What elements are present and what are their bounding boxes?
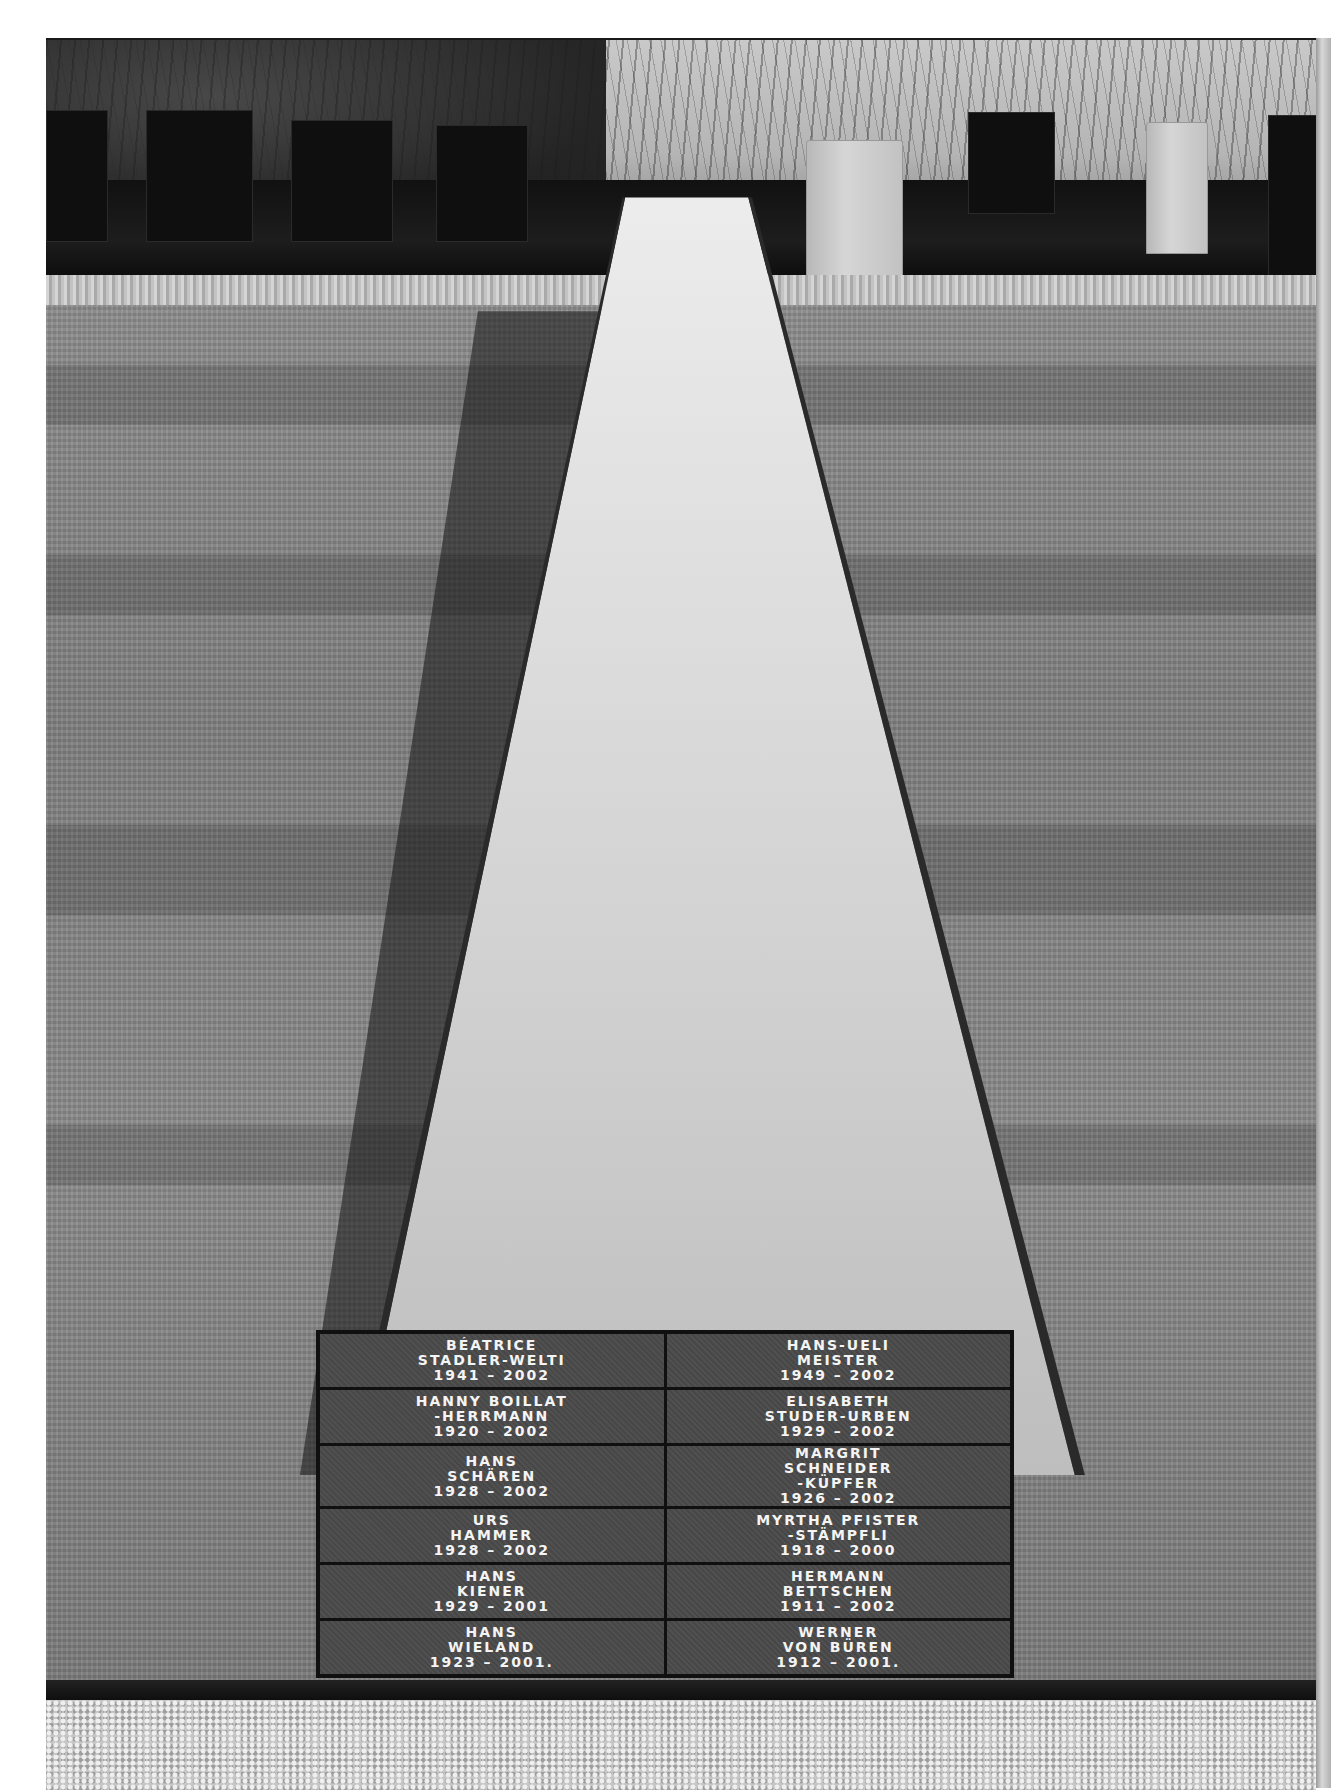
headstone [291,120,393,242]
headstone-light [1146,122,1208,254]
plaque-line: BETTSCHEN [783,1584,894,1599]
front-metal-edge [46,1680,1316,1702]
plaque-line: STADLER-WELTI [418,1353,566,1368]
plaque-line: -KÜPFER [797,1476,879,1491]
plaque-line: URS [473,1513,511,1528]
plaque-line: HANS [466,1625,518,1640]
plaque-line: HERMANN [791,1569,885,1584]
headstone [146,110,253,242]
plaque-line: 1941 – 2002 [433,1368,550,1383]
plaque: ELISABETH STUDER-URBEN 1929 – 2002 [667,1390,1011,1443]
plaque: HANS WIELAND 1923 – 2001. [320,1621,664,1674]
headstone [46,110,108,242]
headstone [1268,115,1316,287]
headstone-light [806,140,903,282]
plaque: HANS KIENER 1929 – 2001 [320,1565,664,1618]
plaque-line: 1949 – 2002 [780,1368,897,1383]
plaque-line: MYRTHA PFISTER [756,1513,920,1528]
plaque-line: STUDER-URBEN [765,1409,912,1424]
plaque: URS HAMMER 1928 – 2002 [320,1509,664,1562]
headstone [436,125,528,242]
plaque-line: WERNER [798,1625,878,1640]
plaque-line: HANS-UELI [787,1338,890,1353]
page-edge [1316,38,1331,1788]
plaque-line: 1926 – 2002 [780,1491,897,1506]
plaque-line: SCHÄREN [447,1469,536,1484]
plaque-line: MARGRIT [795,1446,882,1461]
plaque-line: -HERRMANN [434,1409,549,1424]
plaque: HANS-UELI MEISTER 1949 – 2002 [667,1334,1011,1387]
plaque: HANS SCHÄREN 1928 – 2002 [320,1446,664,1506]
plaque-line: 1918 – 2000 [780,1543,897,1558]
plaque-line: MEISTER [797,1353,880,1368]
plaque-line: SCHNEIDER [784,1461,893,1476]
plaque-line: 1923 – 2001. [430,1655,554,1670]
plaque-line: HANNY BOILLAT [416,1394,568,1409]
plaque-line: 1911 – 2002 [780,1599,897,1614]
plaque: MYRTHA PFISTER -STÄMPFLI 1918 – 2000 [667,1509,1011,1562]
plaque-line: BÉATRICE [446,1338,537,1353]
plaque-line: WIELAND [448,1640,535,1655]
plaque-line: HAMMER [450,1528,533,1543]
plaque: MARGRIT SCHNEIDER -KÜPFER 1926 – 2002 [667,1446,1011,1506]
plaque: HERMANN BETTSCHEN 1911 – 2002 [667,1565,1011,1618]
memorial-photograph: BÉATRICE STADLER-WELTI 1941 – 2002 HANS-… [46,38,1316,1790]
plaque-line: 1929 – 2001 [433,1599,550,1614]
headstone [968,112,1055,214]
plaque-line: KIENER [457,1584,527,1599]
plaque-line: HANS [466,1569,518,1584]
plaque: WERNER VON BÜREN 1912 – 2001. [667,1621,1011,1674]
plaque-line: 1929 – 2002 [780,1424,897,1439]
plaque-line: ELISABETH [786,1394,890,1409]
plaque-line: VON BÜREN [783,1640,894,1655]
plaque-line: 1928 – 2002 [433,1543,550,1558]
plaque: BÉATRICE STADLER-WELTI 1941 – 2002 [320,1334,664,1387]
gravel-foreground [46,1700,1316,1790]
plaque-line: 1928 – 2002 [433,1484,550,1499]
plaque-line: HANS [466,1454,518,1469]
plaque-line: 1912 – 2001. [776,1655,900,1670]
plaque-line: -STÄMPFLI [788,1528,889,1543]
name-plaques: BÉATRICE STADLER-WELTI 1941 – 2002 HANS-… [316,1330,1014,1678]
plaque: HANNY BOILLAT -HERRMANN 1920 – 2002 [320,1390,664,1443]
plaque-line: 1920 – 2002 [433,1424,550,1439]
